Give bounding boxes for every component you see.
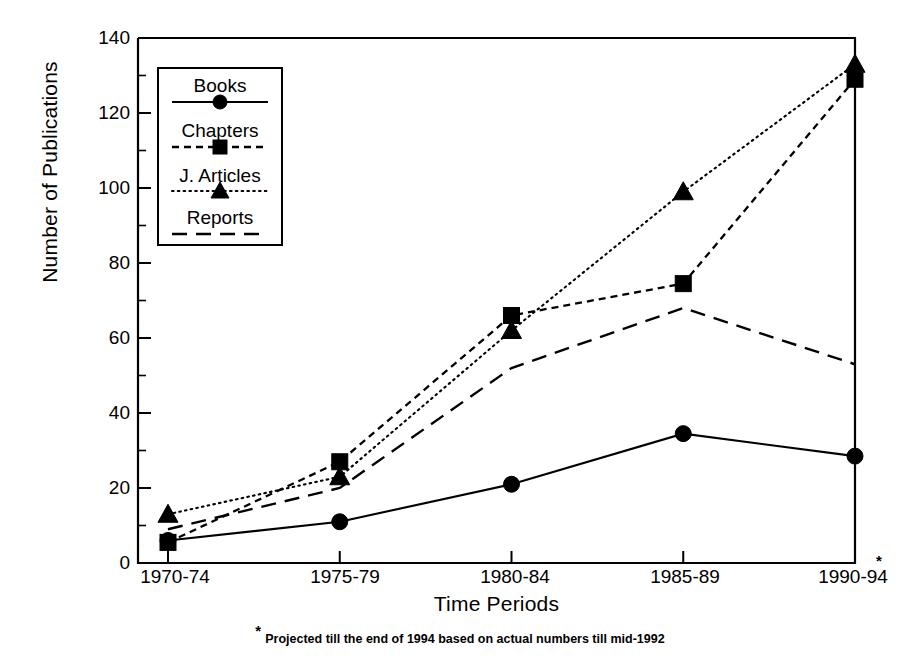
legend-label-reports: Reports bbox=[158, 207, 282, 229]
legend-label-articles: J. Articles bbox=[158, 165, 282, 187]
publications-line-chart: Number of Publications 140 120 100 80 60… bbox=[0, 0, 920, 663]
marker-chapters-1985-89 bbox=[675, 276, 691, 292]
marker-books-1980-84 bbox=[504, 476, 520, 492]
marker-chapters-1970-74 bbox=[160, 534, 176, 550]
marker-books-1985-89 bbox=[675, 426, 691, 442]
legend: Books Chapters J. Articles Reports bbox=[158, 68, 282, 245]
marker-books-1975-79 bbox=[332, 514, 348, 530]
legend-label-chapters: Chapters bbox=[158, 120, 282, 142]
legend-label-books: Books bbox=[158, 75, 282, 97]
plot-area bbox=[0, 0, 920, 663]
marker-j-articles-1990-94 bbox=[845, 54, 865, 72]
marker-books-1990-94 bbox=[847, 448, 863, 464]
marker-j-articles-1985-89 bbox=[673, 182, 693, 200]
series-line-reports bbox=[168, 308, 855, 529]
marker-chapters-1990-94 bbox=[847, 71, 863, 87]
